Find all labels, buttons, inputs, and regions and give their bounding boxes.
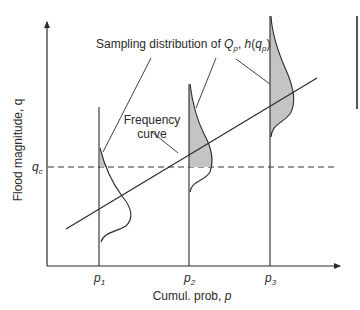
x-tick-p3: p3 bbox=[264, 271, 277, 287]
right-edge-bar bbox=[356, 16, 358, 109]
x-tick-p2: p2 bbox=[183, 271, 196, 287]
threshold-qc-label: qc bbox=[32, 160, 43, 176]
flood-frequency-diagram: Sampling distribution of Qp, h(qp) Frequ… bbox=[0, 0, 360, 310]
sampling-distribution-label: Sampling distribution of Qp, h(qp) bbox=[96, 37, 270, 53]
x-axis-label: Cumul. prob, p bbox=[153, 289, 232, 303]
frequency-curve-label-line1: Frequency bbox=[124, 113, 181, 127]
sampling-leader-p2 bbox=[196, 58, 216, 108]
y-axis-label: Flood magnitude, q bbox=[11, 99, 25, 202]
frequency-curve-label-line2: curve bbox=[137, 127, 167, 141]
x-tick-p1: p1 bbox=[93, 271, 105, 287]
p1-distribution-curve bbox=[100, 148, 131, 242]
sampling-leader-p3 bbox=[236, 59, 270, 84]
